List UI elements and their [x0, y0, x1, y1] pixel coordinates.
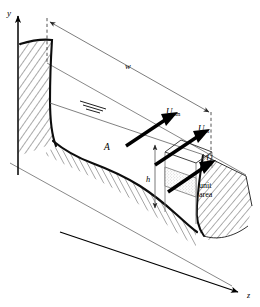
depth-dimension-label: h — [146, 175, 150, 184]
width-dimension-label: w — [125, 61, 131, 71]
unit-area-label-line2: area — [199, 190, 213, 199]
velocity-label-u: U — [206, 153, 213, 163]
y-axis-label: y — [6, 8, 11, 18]
velocity-label-u-om: Uom — [166, 106, 181, 117]
unit-area-label-line1: unit — [199, 181, 212, 190]
water-surface-symbol — [80, 101, 106, 113]
figure-container: y z — [0, 0, 260, 307]
z-axis — [60, 232, 238, 292]
velocity-label-u-m: Um — [198, 123, 210, 134]
channel-bed — [44, 141, 197, 246]
channel-diagram: y z — [0, 0, 260, 307]
left-bank — [18, 40, 56, 156]
area-label: A — [103, 142, 110, 152]
velocity-arrow-u-om — [126, 112, 178, 146]
z-axis-label: z — [246, 291, 251, 300]
